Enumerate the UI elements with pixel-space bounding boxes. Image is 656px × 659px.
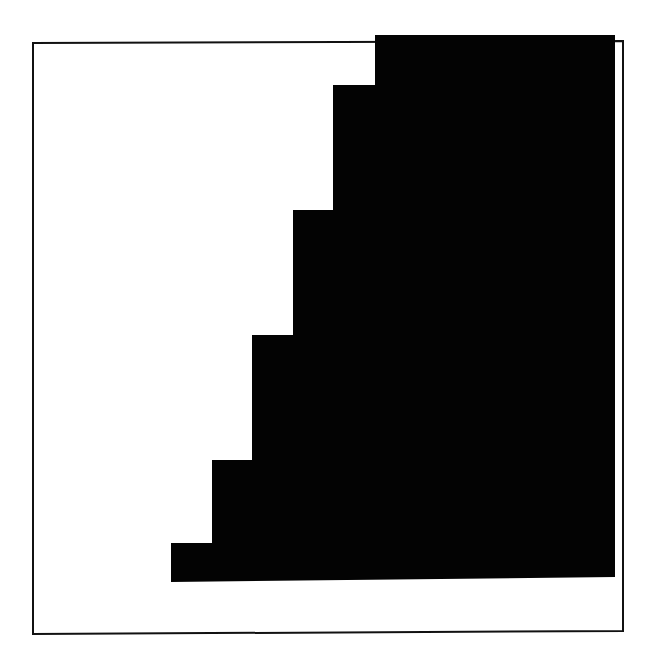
staircase-figure	[0, 0, 656, 659]
